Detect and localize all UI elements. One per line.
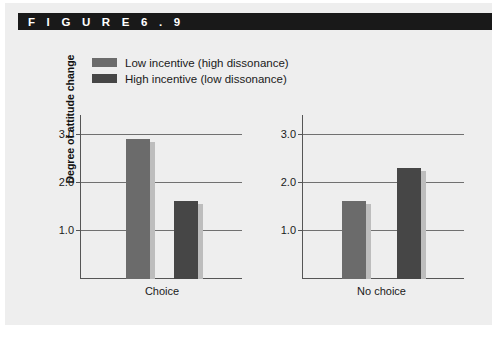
y-tick-3-choice — [76, 134, 80, 135]
gridline-1-no-choice — [303, 230, 464, 231]
y-tick-label-1-choice: 1.0 — [59, 224, 74, 236]
plot-panel-choice: 3.0 2.0 1.0 Choice — [80, 115, 242, 280]
legend-item-high-incentive: High incentive (low dissonance) — [92, 71, 289, 86]
y-axis-line-no-choice — [302, 115, 303, 279]
gridline-2-choice — [81, 182, 242, 183]
y-tick-label-1-no-choice: 1.0 — [281, 224, 296, 236]
y-tick-2-choice — [76, 182, 80, 183]
gridline-3-no-choice — [303, 134, 464, 135]
bar-no-choice-low-incentive — [342, 201, 366, 279]
gridline-1-choice — [81, 230, 242, 231]
y-tick-label-2-choice: 2.0 — [59, 176, 74, 188]
figure-screenshot: F I G U R E 6 . 9 Low incentive (high di… — [0, 0, 500, 338]
y-tick-2-no-choice — [298, 182, 302, 183]
legend-label-low-incentive: Low incentive (high dissonance) — [125, 57, 289, 69]
y-tick-label-2-no-choice: 2.0 — [281, 176, 296, 188]
bar-choice-low-incentive — [126, 139, 150, 279]
x-category-label-no-choice: No choice — [332, 285, 432, 297]
bar-shadow — [366, 204, 371, 279]
y-tick-3-no-choice — [298, 134, 302, 135]
chart-legend: Low incentive (high dissonance) High inc… — [92, 55, 289, 87]
y-axis-line-choice — [80, 115, 81, 279]
bar-shadow — [421, 171, 426, 279]
x-category-label-choice: Choice — [112, 285, 212, 297]
bar-shadow — [198, 204, 203, 279]
legend-label-high-incentive: High incentive (low dissonance) — [125, 73, 287, 85]
x-axis-line-choice — [80, 278, 242, 279]
y-tick-label-3-choice: 3.0 — [59, 128, 74, 140]
bar-shadow — [150, 142, 155, 279]
figure-number-label: F I G U R E 6 . 9 — [28, 16, 184, 28]
legend-swatch-high-incentive — [92, 74, 117, 83]
legend-item-low-incentive: Low incentive (high dissonance) — [92, 55, 289, 70]
gridline-2-no-choice — [303, 182, 464, 183]
x-axis-line-no-choice — [302, 278, 464, 279]
y-tick-1-choice — [76, 230, 80, 231]
gridline-3-choice — [81, 134, 242, 135]
bar-no-choice-high-incentive — [397, 168, 421, 279]
figure-panel: F I G U R E 6 . 9 Low incentive (high di… — [5, 3, 492, 325]
figure-header-band: F I G U R E 6 . 9 — [18, 13, 492, 30]
plot-panel-no-choice: 3.0 2.0 1.0 No choice — [302, 115, 464, 280]
legend-swatch-low-incentive — [92, 58, 117, 67]
bar-choice-high-incentive — [174, 201, 198, 279]
y-tick-1-no-choice — [298, 230, 302, 231]
y-tick-label-3-no-choice: 3.0 — [281, 128, 296, 140]
